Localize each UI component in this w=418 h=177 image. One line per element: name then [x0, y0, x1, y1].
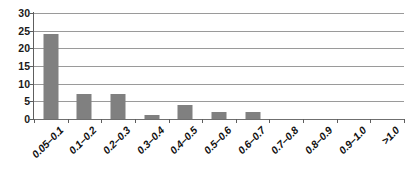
y-axis-tick-mark [29, 84, 34, 85]
y-axis-tick-label: 20 [4, 43, 30, 53]
chart-screenshot: 051015202530 0.05–0.10.1–0.20.2–0.30.3–0… [0, 0, 418, 177]
bar [178, 105, 193, 119]
bar-slot [202, 13, 236, 119]
y-axis-tick-label: 30 [4, 8, 30, 18]
bar-slot [303, 13, 337, 119]
bar-slot [34, 13, 68, 119]
x-axis-tick-label: 0.7–0.8 [268, 124, 300, 156]
x-axis-tick-label: >1.0 [379, 124, 402, 147]
x-axis-tick-mark [236, 119, 237, 123]
bar [77, 94, 92, 119]
bar-slot [337, 13, 371, 119]
x-axis-tick-label: 0.3–0.4 [134, 124, 166, 156]
bar-slot [236, 13, 270, 119]
bar-slot [269, 13, 303, 119]
y-axis-tick-label: 15 [4, 61, 30, 71]
bar [111, 94, 126, 119]
x-axis-tick-label: 0.8–0.9 [302, 124, 334, 156]
y-axis-tick-mark [29, 13, 34, 14]
x-axis-tick-label: 0.2–0.3 [100, 124, 132, 156]
bar [43, 34, 58, 119]
x-axis-tick-label: 0.9–1.0 [336, 124, 368, 156]
x-axis-tick-mark [303, 119, 304, 123]
x-axis-tick-mark [370, 119, 371, 123]
x-axis-tick-label: 0.4–0.5 [168, 124, 200, 156]
x-axis-tick-labels: 0.05–0.10.1–0.20.2–0.30.3–0.40.4–0.50.5–… [34, 124, 405, 177]
x-axis-tick-label: 0.6–0.7 [235, 124, 267, 156]
y-axis-tick-mark [29, 66, 34, 67]
y-axis-tick-label: 5 [4, 96, 30, 106]
bar-slot [68, 13, 102, 119]
x-axis-tick-mark [169, 119, 170, 123]
y-axis-tick-mark [29, 101, 34, 102]
bar-series [34, 13, 404, 119]
x-axis-tick-mark [34, 119, 35, 123]
x-axis-tick-mark [337, 119, 338, 123]
bar-slot [101, 13, 135, 119]
y-axis-tick-labels: 051015202530 [0, 13, 30, 119]
y-axis-tick-label: 10 [4, 79, 30, 89]
bar [211, 112, 226, 119]
x-axis-tick-mark [269, 119, 270, 123]
y-axis-tick-mark [29, 31, 34, 32]
x-axis-tick-mark [202, 119, 203, 123]
bar-slot [370, 13, 404, 119]
y-axis-tick-mark [29, 48, 34, 49]
x-axis-tick-label: 0.05–0.1 [29, 124, 65, 160]
y-axis-tick-label: 0 [4, 114, 30, 124]
y-axis-tick-label: 25 [4, 26, 30, 36]
x-axis-tick-mark [68, 119, 69, 123]
x-axis-tick-label: 0.1–0.2 [67, 124, 99, 156]
x-axis-tick-mark [101, 119, 102, 123]
bar-slot [169, 13, 203, 119]
bar-slot [135, 13, 169, 119]
x-axis-tick-mark [135, 119, 136, 123]
bar [245, 112, 260, 119]
x-axis-tick-mark [404, 119, 405, 123]
y-axis-tick-mark [29, 119, 34, 120]
x-axis-tick-label: 0.5–0.6 [201, 124, 233, 156]
